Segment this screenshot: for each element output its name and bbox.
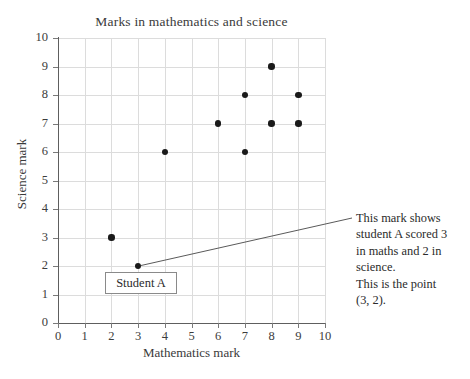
gridline-horizontal [58, 67, 325, 68]
x-axis-tick [85, 323, 86, 328]
gridline-horizontal [58, 95, 325, 96]
y-axis-line [58, 37, 59, 324]
x-axis-tick [298, 323, 299, 328]
x-axis-tick-label: 9 [285, 329, 311, 344]
y-axis-tick-label: 7 [22, 116, 48, 131]
y-axis-tick [53, 181, 58, 182]
data-point [268, 120, 274, 126]
callout-line-3: in maths and 2 in [356, 243, 468, 259]
y-axis-tick-label: 9 [22, 59, 48, 74]
y-axis-tick-label: 10 [22, 30, 48, 45]
y-axis-tick [53, 38, 58, 39]
y-axis-tick-label: 5 [22, 173, 48, 188]
gridline-horizontal [58, 181, 325, 182]
y-axis-tick [53, 295, 58, 296]
x-axis-tick-label: 2 [98, 329, 124, 344]
data-point [295, 92, 301, 98]
y-axis-tick-label: 4 [22, 201, 48, 216]
y-axis-tick-label: 8 [22, 87, 48, 102]
y-axis-tick [53, 238, 58, 239]
x-axis-tick-label: 0 [45, 329, 71, 344]
x-axis-tick [245, 323, 246, 328]
gridline-horizontal [58, 238, 325, 239]
data-point [295, 120, 301, 126]
y-axis-tick [53, 67, 58, 68]
x-axis-tick [58, 323, 59, 328]
x-axis-tick-label: 3 [125, 329, 151, 344]
x-axis-tick-label: 7 [232, 329, 258, 344]
x-axis-tick [218, 323, 219, 328]
x-axis-tick [138, 323, 139, 328]
callout-line-6: (3, 2). [356, 292, 468, 308]
y-axis-tick [53, 266, 58, 267]
y-axis-tick [53, 209, 58, 210]
x-axis-tick [192, 323, 193, 328]
x-axis-tick-label: 5 [179, 329, 205, 344]
plot-area [58, 38, 325, 323]
x-axis-tick-label: 1 [72, 329, 98, 344]
x-axis-tick [325, 323, 326, 328]
x-axis-tick [111, 323, 112, 328]
y-axis-tick-label: 2 [22, 258, 48, 273]
x-axis-title: Mathematics mark [58, 345, 325, 361]
explanation-callout-text: This mark shows student A scored 3 in ma… [356, 210, 468, 308]
y-axis-tick-label: 0 [22, 315, 48, 330]
chart-title: Marks in mathematics and science [58, 14, 325, 30]
student-a-label-box: Student A [105, 272, 177, 294]
y-axis-tick-label: 3 [22, 230, 48, 245]
callout-line-4: science. [356, 259, 468, 275]
gridline-horizontal [58, 152, 325, 153]
y-axis-tick-label: 6 [22, 144, 48, 159]
x-axis-tick-label: 6 [205, 329, 231, 344]
callout-line-5: This is the point [356, 276, 468, 292]
y-axis-tick-label: 1 [22, 287, 48, 302]
gridline-horizontal [58, 124, 325, 125]
callout-line-1: This mark shows [356, 210, 468, 226]
data-point [268, 63, 274, 69]
scatter-chart-figure: Marks in mathematics and science Mathema… [0, 0, 470, 379]
student-a-label-text: Student A [116, 276, 166, 291]
callout-line-2: student A scored 3 [356, 226, 468, 242]
x-axis-tick-label: 8 [259, 329, 285, 344]
data-point [215, 120, 221, 126]
x-axis-tick [272, 323, 273, 328]
x-axis-tick [165, 323, 166, 328]
gridline-horizontal [58, 266, 325, 267]
data-point [108, 234, 114, 240]
x-axis-tick-label: 10 [312, 329, 338, 344]
y-axis-tick [53, 124, 58, 125]
gridline-horizontal [58, 209, 325, 210]
gridline-vertical [325, 38, 326, 323]
x-axis-tick-label: 4 [152, 329, 178, 344]
gridline-horizontal [58, 38, 325, 39]
y-axis-tick [53, 95, 58, 96]
gridline-horizontal [58, 295, 325, 296]
y-axis-tick [53, 152, 58, 153]
